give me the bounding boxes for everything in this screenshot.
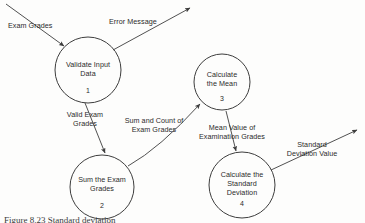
flow-mean-value-label-line2: Examination Grades	[199, 132, 265, 141]
flow-mean-value: Mean Value of Examination Grades	[199, 111, 265, 151]
process-4-number: 4	[240, 200, 244, 207]
process-3-number: 3	[220, 95, 224, 102]
flow-sum-and-count-line	[128, 104, 200, 166]
process-3-label-line2: the Mean	[207, 79, 237, 88]
flow-sum-and-count-label-line2: Exam Grades	[132, 125, 177, 134]
flow-valid-exam-grades-label-line2: Grades	[73, 119, 97, 128]
flow-valid-exam-grades-label-line1: Valid Exam	[67, 110, 103, 119]
flow-error-message-label: Error Message	[109, 17, 157, 26]
process-4-label-line3: Deviation	[227, 188, 257, 197]
flow-error-message: Error Message	[109, 8, 190, 50]
process-4-calculate-the-standard-deviation[interactable]: Calculate the Standard Deviation 4	[209, 152, 275, 218]
process-4-label-line2: Standard	[227, 179, 257, 188]
process-1-validate-input-data[interactable]: Validate Input Data 1	[55, 37, 121, 103]
flow-mean-value-label-line1: Mean Value of	[209, 123, 255, 132]
flow-sum-and-count: Sum and Count of Exam Grades	[125, 104, 200, 166]
diagram-page: Exam Grades Error Message Valid Exam Gra…	[0, 0, 365, 223]
process-2-label-line2: Grades	[90, 184, 114, 193]
process-2-number: 2	[100, 202, 104, 209]
flow-sum-and-count-label-line1: Sum and Count of	[125, 116, 184, 125]
process-3-calculate-the-mean[interactable]: Calculate the Mean 3	[194, 54, 250, 110]
process-2-sum-the-exam-grades[interactable]: Sum the Exam Grades 2	[70, 155, 134, 219]
process-1-label-line2: Data	[80, 69, 95, 78]
flow-exam-grades-label: Exam Grades	[8, 21, 53, 30]
data-flow-diagram: Exam Grades Error Message Valid Exam Gra…	[0, 0, 365, 223]
flow-valid-exam-grades: Valid Exam Grades	[67, 103, 105, 153]
process-2-label-line1: Sum the Exam	[78, 175, 126, 184]
flow-exam-grades: Exam Grades	[6, 4, 64, 46]
process-1-number: 1	[86, 87, 90, 94]
flow-standard-deviation-value: Standard Deviation Value	[271, 130, 357, 170]
process-1-label-line1: Validate Input	[66, 60, 110, 69]
figure-caption: Figure 8.23 Standard deviation	[4, 215, 361, 223]
flow-standard-deviation-value-label-line1: Standard	[297, 140, 327, 149]
process-3-label-line1: Calculate	[207, 70, 237, 79]
flow-error-message-line	[113, 8, 190, 50]
process-4-label-line1: Calculate the	[221, 170, 264, 179]
flow-standard-deviation-value-label-line2: Deviation Value	[287, 149, 338, 158]
